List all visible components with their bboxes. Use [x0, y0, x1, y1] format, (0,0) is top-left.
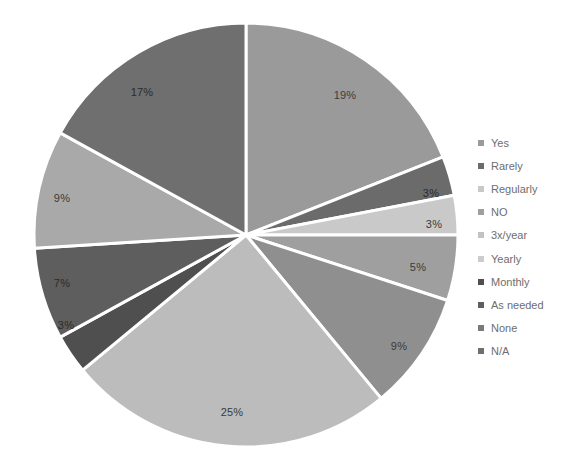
legend-swatch-icon — [478, 186, 484, 192]
pie-slice-value-label: 3% — [423, 187, 439, 199]
legend-item-label: Yearly — [491, 253, 521, 265]
legend-item[interactable]: N/A — [478, 340, 578, 363]
pie-plot-area: 19%3%3%5%9%25%3%7%9%17% — [0, 0, 470, 461]
legend-swatch-icon — [478, 325, 484, 331]
legend-item[interactable]: As needed — [478, 293, 578, 316]
pie-slice-value-label: 9% — [391, 340, 407, 352]
legend-swatch-icon — [478, 140, 484, 146]
pie-slice-value-label: 19% — [334, 89, 357, 101]
pie-svg — [0, 0, 470, 461]
legend-swatch-icon — [478, 209, 484, 215]
pie-chart: 19%3%3%5%9%25%3%7%9%17% YesRarelyRegular… — [0, 0, 581, 461]
legend-item[interactable]: 3x/year — [478, 224, 578, 247]
pie-slice-value-label: 7% — [54, 277, 70, 289]
legend-item-label: Regularly — [491, 183, 537, 195]
legend-item-label: N/A — [491, 345, 509, 357]
legend-item-label: Rarely — [491, 160, 523, 172]
legend-swatch-icon — [478, 163, 484, 169]
legend-item-label: Yes — [491, 137, 509, 149]
pie-slice-value-label: 25% — [221, 406, 244, 418]
legend-item-label: Monthly — [491, 276, 530, 288]
pie-slice-value-label: 3% — [58, 319, 74, 331]
legend-item-label: None — [491, 322, 517, 334]
chart-legend: YesRarelyRegularlyNO3x/yearYearlyMonthly… — [478, 131, 578, 363]
legend-swatch-icon — [478, 256, 484, 262]
pie-slice-value-label: 9% — [54, 192, 70, 204]
legend-swatch-icon — [478, 279, 484, 285]
legend-item[interactable]: Regularly — [478, 177, 578, 200]
legend-item-label: As needed — [491, 299, 544, 311]
legend-swatch-icon — [478, 302, 484, 308]
legend-swatch-icon — [478, 348, 484, 354]
legend-swatch-icon — [478, 232, 484, 238]
legend-item[interactable]: Monthly — [478, 270, 578, 293]
legend-item-label: NO — [491, 206, 508, 218]
legend-item[interactable]: Rarely — [478, 154, 578, 177]
pie-slice-value-label: 17% — [131, 86, 154, 98]
pie-slice-value-label: 3% — [426, 218, 442, 230]
legend-item-label: 3x/year — [491, 229, 527, 241]
legend-item[interactable]: NO — [478, 201, 578, 224]
pie-slice-value-label: 5% — [410, 261, 426, 273]
legend-item[interactable]: None — [478, 317, 578, 340]
legend-item[interactable]: Yes — [478, 131, 578, 154]
legend-item[interactable]: Yearly — [478, 247, 578, 270]
